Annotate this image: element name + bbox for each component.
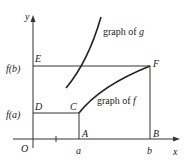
origin-label: O: [21, 143, 28, 154]
point-A-label: A: [81, 128, 89, 139]
graph-f-label: graph of f: [97, 95, 137, 106]
tick-b-label: b: [147, 145, 152, 156]
point-C-label: C: [70, 101, 77, 112]
y-axis-label: y: [24, 11, 30, 22]
point-E-label: E: [34, 53, 41, 64]
x-axis-arrow-icon: [173, 137, 180, 142]
point-D-label: D: [34, 101, 43, 112]
y-axis-arrow-icon: [31, 15, 36, 22]
tick-fb-label: f(b): [6, 63, 21, 75]
diagram-canvas: y x O E F D C A B f(b) f(a) a b graph of…: [0, 0, 186, 162]
point-B-label: B: [153, 128, 159, 139]
graph-of-g: [66, 17, 101, 88]
point-F-label: F: [152, 58, 160, 69]
x-axis-label: x: [172, 146, 178, 157]
tick-a-label: a: [76, 145, 81, 156]
graph-g-label: graph of g: [103, 26, 144, 37]
tick-fa-label: f(a): [6, 109, 21, 121]
